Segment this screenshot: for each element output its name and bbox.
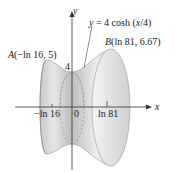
y-intercept-label: 4: [65, 62, 70, 72]
x-axis-arrow-icon: [146, 105, 152, 110]
curve-eq-rhs: = 4 cosh (: [93, 17, 135, 28]
x-axis-label: x: [155, 102, 159, 112]
x-tick-label-neg-ln16: −ln 16: [34, 109, 60, 119]
x-tick-label-zero: 0: [74, 109, 79, 119]
y-axis-label: y: [73, 6, 77, 16]
point-b-coords: (ln 81, 6.67): [111, 36, 160, 47]
point-b-label: B(ln 81, 6.67): [105, 37, 161, 47]
curve-equation-label: y = 4 cosh (x/4): [89, 18, 151, 28]
point-a-label: A(−ln 16, 5): [8, 50, 57, 60]
curve-eq-tail: /4): [140, 17, 151, 28]
x-tick-label-ln81: ln 81: [98, 109, 118, 119]
point-a-coords: (−ln 16, 5): [14, 49, 57, 60]
